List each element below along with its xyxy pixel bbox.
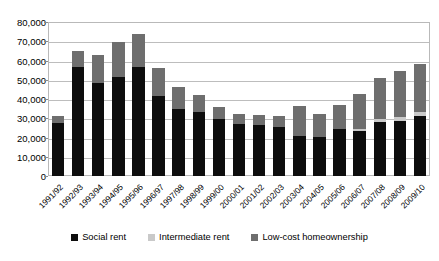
legend-item[interactable]: Intermediate rent <box>148 232 229 242</box>
bar-series-group <box>48 22 430 176</box>
legend-item[interactable]: Social rent <box>71 232 126 242</box>
legend-swatch-icon <box>148 234 155 241</box>
bar-segment <box>233 124 245 176</box>
bar-segment <box>273 127 285 176</box>
y-axis-tick-mark <box>44 157 48 158</box>
bar-column[interactable] <box>52 116 64 176</box>
bar-segment <box>313 114 325 136</box>
legend-swatch-icon <box>251 234 258 241</box>
bar-segment <box>233 114 245 124</box>
bar-column[interactable] <box>213 107 225 176</box>
bar-segment <box>72 67 84 176</box>
bar-column[interactable] <box>414 64 426 176</box>
bar-column[interactable] <box>333 105 345 176</box>
legend-label: Social rent <box>82 232 126 242</box>
bar-segment <box>52 116 64 123</box>
y-axis-tick-label: 40,000 <box>0 94 46 105</box>
bar-segment <box>213 107 225 120</box>
y-axis-tick-mark <box>44 41 48 42</box>
bar-segment <box>112 42 124 77</box>
bar-segment <box>313 137 325 176</box>
bar-segment <box>172 87 184 109</box>
y-axis-tick-mark <box>44 22 48 23</box>
bar-segment <box>193 95 205 112</box>
bar-segment <box>132 34 144 68</box>
y-axis-tick-label: 0 <box>0 171 46 182</box>
bar-column[interactable] <box>172 87 184 177</box>
bar-column[interactable] <box>293 106 305 176</box>
bar-segment <box>293 136 305 176</box>
bar-column[interactable] <box>112 42 124 176</box>
bar-column[interactable] <box>72 51 84 176</box>
y-axis-tick-label: 30,000 <box>0 113 46 124</box>
bar-column[interactable] <box>273 116 285 176</box>
legend-label: Low-cost homeownership <box>262 232 367 242</box>
bar-segment <box>253 125 265 176</box>
bar-column[interactable] <box>374 78 386 176</box>
y-axis-tick-mark <box>44 118 48 119</box>
bar-segment <box>394 71 406 117</box>
bar-column[interactable] <box>313 114 325 176</box>
chart-container: 1991/921992/931993/941994/951995/961996/… <box>0 0 439 261</box>
bar-column[interactable] <box>193 95 205 176</box>
bar-column[interactable] <box>353 94 365 176</box>
y-axis-tick-mark <box>44 61 48 62</box>
y-axis-tick-label: 60,000 <box>0 55 46 66</box>
bar-segment <box>92 55 104 83</box>
y-axis-tick-label: 50,000 <box>0 74 46 85</box>
bar-column[interactable] <box>152 68 164 176</box>
y-axis-tick-label: 20,000 <box>0 132 46 143</box>
legend-swatch-icon <box>71 234 78 241</box>
bar-segment <box>333 129 345 176</box>
y-axis-tick-label: 70,000 <box>0 36 46 47</box>
bar-segment <box>72 51 84 67</box>
bar-segment <box>374 122 386 176</box>
bar-segment <box>193 112 205 176</box>
bar-segment <box>353 131 365 176</box>
bar-segment <box>293 106 305 136</box>
bar-segment <box>253 115 265 125</box>
bar-column[interactable] <box>92 55 104 176</box>
bar-column[interactable] <box>132 34 144 176</box>
bar-segment <box>374 78 386 119</box>
bar-segment <box>152 96 164 176</box>
bar-segment <box>152 68 164 96</box>
bar-column[interactable] <box>233 114 245 176</box>
bar-column[interactable] <box>394 71 406 176</box>
y-axis-tick-mark <box>44 176 48 177</box>
y-axis-tick-label: 10,000 <box>0 151 46 162</box>
y-axis-tick-mark <box>44 138 48 139</box>
x-axis: 1991/921992/931993/941994/951995/961996/… <box>0 176 439 228</box>
bar-segment <box>353 94 365 129</box>
bar-segment <box>172 109 184 176</box>
bar-segment <box>414 116 426 176</box>
chart-legend: Social rentIntermediate rentLow-cost hom… <box>0 232 439 242</box>
y-axis-tick-mark <box>44 80 48 81</box>
bar-segment <box>273 116 285 127</box>
bar-segment <box>333 105 345 129</box>
bar-column[interactable] <box>253 115 265 176</box>
bar-segment <box>52 123 64 176</box>
bar-segment <box>92 83 104 176</box>
legend-label: Intermediate rent <box>159 232 229 242</box>
legend-item[interactable]: Low-cost homeownership <box>251 232 367 242</box>
bar-segment <box>213 119 225 176</box>
bar-segment <box>414 64 426 112</box>
bar-segment <box>394 121 406 176</box>
bar-segment <box>112 77 124 176</box>
y-axis-tick-mark <box>44 99 48 100</box>
y-axis-tick-label: 80,000 <box>0 17 46 28</box>
bar-segment <box>132 67 144 176</box>
